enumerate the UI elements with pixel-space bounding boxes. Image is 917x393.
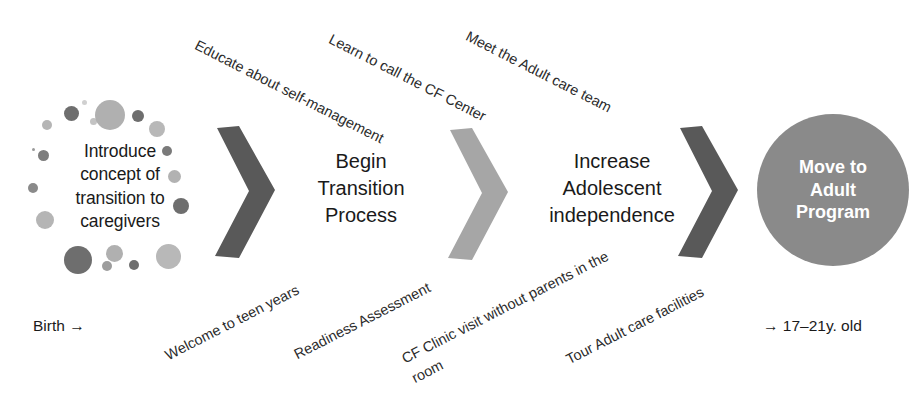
cluster-dot <box>64 246 92 274</box>
cluster-dot <box>38 150 49 161</box>
stage-1-label-line-2: concept of <box>54 163 186 186</box>
stage-4-label-line-1: Move to <box>796 156 870 179</box>
cluster-dot <box>156 244 181 269</box>
cluster-dot <box>42 120 52 130</box>
annot-bottom-1: Welcome to teen years <box>162 282 301 363</box>
cluster-dot <box>36 211 54 229</box>
cluster-dot <box>149 121 165 137</box>
arrow-2-chevron-right-icon <box>446 128 512 262</box>
cluster-dot <box>129 260 139 270</box>
stage-2-label-line-2: Transition <box>286 175 436 202</box>
annot-top-2: Learn to call the CF Center <box>326 31 488 124</box>
annot-bottom-3: CF Clinic visit without parents in the r… <box>398 246 623 389</box>
cluster-dot <box>32 148 35 151</box>
transition-process-diagram: Introduce concept of transition to careg… <box>0 0 917 393</box>
stage-1-label-line-1: Introduce <box>54 140 186 163</box>
stage-2-label: Begin Transition Process <box>286 148 436 228</box>
annot-top-3: Meet the Adult care team <box>463 28 614 115</box>
stage-2-label-line-3: Process <box>286 202 436 229</box>
stage-1-label: Introduce concept of transition to careg… <box>54 140 186 233</box>
cluster-dot <box>102 261 112 271</box>
cluster-dot <box>64 106 79 121</box>
stage-4-circle: Move to Adult Program <box>757 114 909 266</box>
stage-4-label: Move to Adult Program <box>796 156 870 224</box>
end-endpoint-label: → 17–21y. old <box>763 317 862 335</box>
arrow-1-chevron-right-icon <box>213 126 279 260</box>
cluster-dot <box>106 245 123 262</box>
cluster-dot <box>82 100 87 105</box>
stage-1-label-line-4: caregivers <box>54 210 186 233</box>
arrow-3-chevron-right-icon <box>676 126 742 260</box>
stage-1-label-line-3: transition to <box>54 187 186 210</box>
stage-1-dot-cluster: Introduce concept of transition to careg… <box>28 98 208 283</box>
cluster-dot <box>95 100 125 130</box>
stage-4-label-line-2: Adult <box>796 179 870 202</box>
start-endpoint-label: Birth → <box>33 317 85 335</box>
stage-2-label-line-1: Begin <box>286 148 436 175</box>
stage-4-label-line-3: Program <box>796 201 870 224</box>
cluster-dot <box>132 110 144 122</box>
cluster-dot <box>28 183 38 193</box>
